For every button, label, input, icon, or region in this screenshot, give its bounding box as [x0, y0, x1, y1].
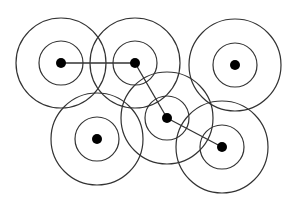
- node-b-dot: [130, 58, 140, 68]
- range-rings: [16, 18, 281, 193]
- node-f-dot: [217, 142, 227, 152]
- node-e-dot: [162, 113, 172, 123]
- connection-edges: [61, 63, 222, 147]
- node-a-dot: [56, 58, 66, 68]
- node-d-dot: [92, 134, 102, 144]
- network-diagram: [0, 0, 293, 205]
- edge-b-e: [135, 63, 167, 118]
- edge-e-f: [167, 118, 222, 147]
- node-c-dot: [230, 60, 240, 70]
